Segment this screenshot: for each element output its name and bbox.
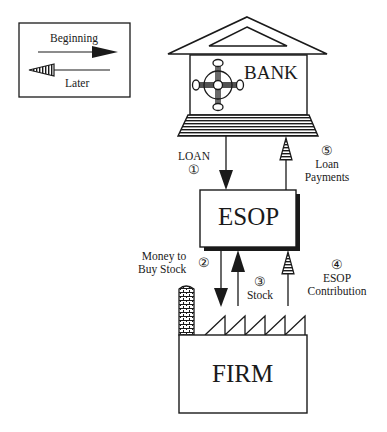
esop-contribution-line2: Contribution	[297, 285, 377, 298]
bank-label: BANK	[244, 63, 298, 84]
esop-contribution-label: ④ ESOP Contribution	[297, 258, 377, 298]
step-2-badge: ②	[198, 256, 210, 270]
loan-payments-line1: Loan	[297, 158, 357, 171]
legend-beginning-label: Beginning	[50, 32, 98, 45]
money-to-buy-stock-arrow-icon	[214, 251, 228, 307]
loan-arrow-icon	[219, 136, 233, 190]
step-3-badge: ③	[242, 275, 278, 289]
loan-payments-arrow-icon	[280, 138, 292, 190]
step-4-badge: ④	[297, 258, 377, 272]
loan-payments-label: ⑤ Loan Payments	[297, 144, 357, 184]
loan-label: LOAN ①	[174, 150, 214, 177]
legend-later-label: Later	[65, 77, 89, 90]
esop-diagram	[0, 0, 387, 432]
money-to-buy-stock-line1: Money to	[138, 250, 186, 263]
money-to-buy-stock-line2: Buy Stock	[138, 263, 186, 276]
stock-label: ③ Stock	[242, 275, 278, 302]
firm-label: FIRM	[212, 360, 273, 388]
esop-label: ESOP	[218, 203, 279, 231]
loan-payments-line2: Payments	[297, 171, 357, 184]
esop-contribution-line1: ESOP	[297, 272, 377, 285]
money-to-buy-stock-label: Money to Buy Stock	[138, 250, 186, 275]
esop-contribution-arrow-icon	[282, 252, 294, 306]
step-5-badge: ⑤	[297, 144, 357, 158]
step-1-badge: ①	[174, 163, 214, 177]
stock-label-text: Stock	[242, 289, 278, 302]
loan-label-text: LOAN	[174, 150, 214, 163]
